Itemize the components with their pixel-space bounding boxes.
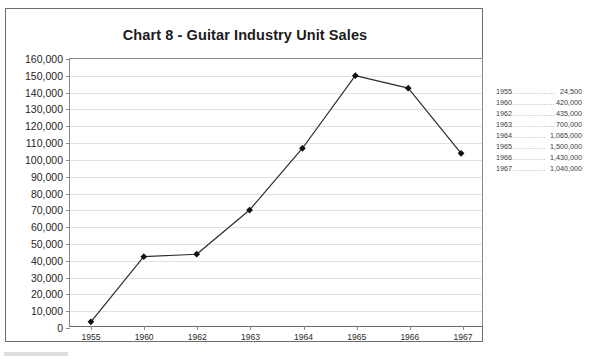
y-tick-label: 150,000 <box>25 70 63 82</box>
y-tick-label: 120,000 <box>25 120 63 132</box>
legend-year: 1955 <box>496 86 512 97</box>
y-tick-label: 60,000 <box>31 221 63 233</box>
legend-value: 700,000 <box>556 119 582 130</box>
x-tick-label: 1967 <box>454 332 473 342</box>
legend-year: 1962 <box>496 108 512 119</box>
y-tick-label: 10,000 <box>31 305 63 317</box>
y-tick-mark <box>66 328 70 329</box>
y-tick-label: 100,000 <box>25 154 63 166</box>
legend-leader-dots: .................. <box>513 108 555 119</box>
y-tick-label: 130,000 <box>25 103 63 115</box>
legend-value: 1,500,000 <box>550 141 582 152</box>
series-markers <box>88 72 465 325</box>
legend-leader-dots: .............. <box>513 141 549 152</box>
x-tick-label: 1962 <box>188 332 207 342</box>
x-tick-label: 1965 <box>347 332 366 342</box>
x-tick-label: 1960 <box>135 332 154 342</box>
legend-leader-dots: .............. <box>513 163 549 174</box>
legend-row: 1955..................24,500 <box>496 86 582 97</box>
x-tick-mark <box>144 326 145 330</box>
data-series <box>70 59 482 326</box>
x-tick-label: 1964 <box>294 332 313 342</box>
legend-row: 1964..............1,065,000 <box>496 130 582 141</box>
x-tick-mark <box>91 326 92 330</box>
y-tick-label: 80,000 <box>31 188 63 200</box>
legend-value: 24,500 <box>560 86 582 97</box>
y-tick-label: 160,000 <box>25 53 63 65</box>
legend-year: 1965 <box>496 141 512 152</box>
plot-area: 010,00020,00030,00040,00050,00060,00070,… <box>69 58 483 327</box>
data-legend: 1955..................24,5001960........… <box>496 86 582 174</box>
y-tick-label: 20,000 <box>31 288 63 300</box>
legend-row: 1967..............1,040,000 <box>496 163 582 174</box>
legend-leader-dots: .................. <box>513 119 555 130</box>
x-tick-label: 1966 <box>400 332 419 342</box>
scan-artifact <box>4 352 68 356</box>
y-tick-label: 50,000 <box>31 238 63 250</box>
legend-year: 1960 <box>496 97 512 108</box>
legend-leader-dots: .............. <box>513 152 549 163</box>
y-tick-label: 90,000 <box>31 171 63 183</box>
legend-value: 1,065,000 <box>550 130 582 141</box>
x-tick-mark <box>304 326 305 330</box>
chart-title: Chart 8 - Guitar Industry Unit Sales <box>6 27 484 43</box>
x-tick-label: 1955 <box>82 332 101 342</box>
legend-year: 1966 <box>496 152 512 163</box>
x-tick-mark <box>357 326 358 330</box>
y-tick-label: 30,000 <box>31 272 63 284</box>
y-tick-label: 70,000 <box>31 204 63 216</box>
x-tick-mark <box>463 326 464 330</box>
legend-row: 1963..................700,000 <box>496 119 582 130</box>
legend-value: 435,000 <box>556 108 582 119</box>
legend-year: 1963 <box>496 119 512 130</box>
x-tick-mark <box>197 326 198 330</box>
x-tick-mark <box>410 326 411 330</box>
y-tick-label: 110,000 <box>26 137 63 149</box>
y-tick-label: 0 <box>57 322 63 334</box>
legend-leader-dots: .................. <box>513 86 559 97</box>
legend-row: 1960..................420,000 <box>496 97 582 108</box>
legend-row: 1966..............1,430,000 <box>496 152 582 163</box>
x-tick-mark <box>250 326 251 330</box>
legend-leader-dots: .............. <box>513 130 549 141</box>
series-line <box>91 76 461 322</box>
y-tick-label: 40,000 <box>31 255 63 267</box>
legend-year: 1967 <box>496 163 512 174</box>
legend-row: 1965..............1,500,000 <box>496 141 582 152</box>
legend-leader-dots: .................. <box>513 97 555 108</box>
legend-value: 420,000 <box>556 97 582 108</box>
legend-value: 1,430,000 <box>550 152 582 163</box>
legend-row: 1962..................435,000 <box>496 108 582 119</box>
legend-year: 1964 <box>496 130 512 141</box>
scanned-page: Chart 8 - Guitar Industry Unit Sales 010… <box>0 0 602 360</box>
y-tick-label: 140,000 <box>25 87 63 99</box>
x-tick-label: 1963 <box>241 332 260 342</box>
chart-frame: Chart 8 - Guitar Industry Unit Sales 010… <box>5 8 483 342</box>
legend-value: 1,040,000 <box>550 163 582 174</box>
